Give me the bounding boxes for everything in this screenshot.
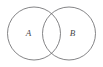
set-a-circle — [8, 7, 61, 60]
set-b-label: B — [70, 28, 76, 38]
set-a-label: A — [25, 28, 32, 38]
venn-diagram: A B — [0, 0, 103, 67]
venn-diagram-canvas: A B — [0, 0, 103, 67]
